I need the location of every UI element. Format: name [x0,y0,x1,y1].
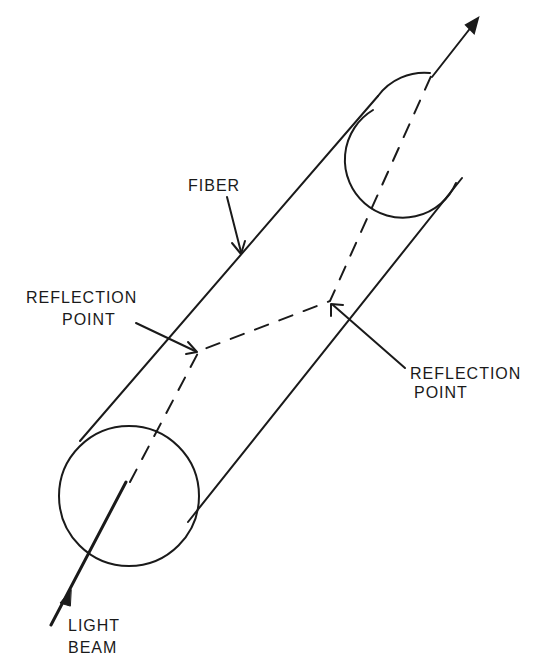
reflection-right-leader [333,305,405,368]
light-path [130,74,432,482]
fiber-label: FIBER [188,175,240,197]
light-beam-arrowhead-icon [60,590,71,606]
fiber-entry-end [59,426,199,566]
light-beam-label-line2: BEAM [68,637,117,659]
fiber-right-edge [188,178,462,522]
reflection-point-right-label-line2: POINT [414,382,468,404]
fiber-exit-end-top-arc [378,73,430,96]
fiber-diagram [0,0,544,672]
fiber-leader [227,197,241,252]
reflection-point-left-label-line1: REFLECTION [26,287,137,309]
fiber-left-edge [80,96,378,441]
reflection-left-leader [136,323,195,351]
fiber-exit-end [345,110,456,218]
light-beam-label-line1: LIGHT [68,615,120,637]
reflection-point-left-label-line2: POINT [62,309,116,331]
light-beam-outgoing [432,26,472,77]
